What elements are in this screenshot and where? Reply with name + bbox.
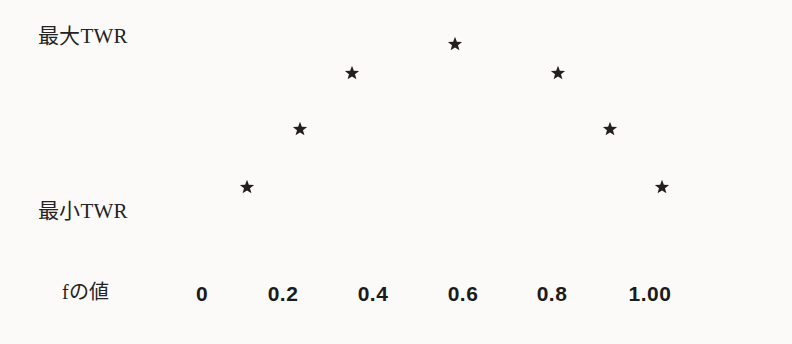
x-tick-label-0.6: 0.6 bbox=[448, 281, 479, 307]
data-point-f-0.8 bbox=[603, 122, 618, 137]
x-tick-label-0.4: 0.4 bbox=[358, 281, 389, 307]
data-point-f-0.9 bbox=[655, 180, 670, 195]
plot-area bbox=[0, 0, 792, 281]
data-point-f-0.5 bbox=[448, 37, 463, 52]
twr-vs-f-figure: 最大TWR 最小TWR fの値 00.20.40.60.81.00 bbox=[0, 0, 792, 344]
x-tick-label-0.2: 0.2 bbox=[268, 281, 299, 307]
x-tick-label-0.8: 0.8 bbox=[537, 281, 568, 307]
data-point-f-0.2 bbox=[293, 122, 308, 137]
x-axis-tick-labels: 00.20.40.60.81.00 bbox=[0, 281, 792, 309]
data-point-f-0.3 bbox=[345, 66, 360, 81]
x-tick-label-0: 0 bbox=[196, 281, 208, 307]
data-point-f-0.7 bbox=[551, 66, 566, 81]
data-point-f-0.1 bbox=[240, 180, 255, 195]
x-tick-label-1.00: 1.00 bbox=[629, 281, 672, 307]
